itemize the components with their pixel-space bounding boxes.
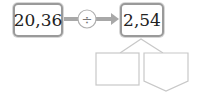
divide-icon: ÷	[78, 10, 96, 28]
branch-lines	[120, 39, 163, 53]
connector-bar	[61, 17, 79, 21]
answer-box-pentagon[interactable]	[144, 53, 188, 91]
output-value-box: 2,54	[120, 3, 164, 37]
input-value: 20,36	[14, 10, 63, 30]
arrow-head-icon	[111, 13, 119, 25]
arrow-shaft	[96, 17, 112, 21]
output-value: 2,54	[123, 10, 161, 30]
answer-box-rectangle[interactable]	[96, 53, 139, 85]
operator-symbol: ÷	[82, 12, 93, 27]
input-value-box: 20,36	[13, 3, 63, 37]
